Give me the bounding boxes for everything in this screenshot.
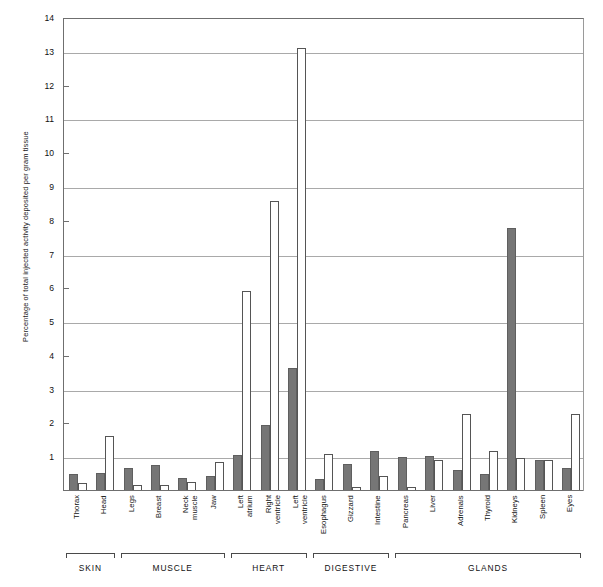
x-tick-label: Spleen [539,495,548,547]
x-tick-label: Eyes [566,495,575,547]
plot-area [63,18,584,491]
bar-filled [233,455,242,491]
bar-filled [288,368,297,491]
x-tick-label: Esophagus [320,495,329,547]
bar-group [174,19,201,491]
x-tick-label: Kidneys [511,495,520,547]
x-tick-label: Thyroid [484,495,493,547]
y-tick-label-3: 3 [28,384,54,394]
x-tick-label: Intestine [374,495,383,547]
y-tick-label-9: 9 [28,181,54,191]
y-tick-label-4: 4 [28,350,54,360]
bar-open [270,201,279,491]
bar-open [242,291,251,491]
group-label-muscle: MUSCLE [121,563,225,573]
y-tick-label-1: 1 [28,452,54,462]
bar-group [283,19,310,491]
x-tick-label: Adrenals [457,495,466,547]
bar-filled [343,464,352,491]
y-tick-label-2: 2 [28,418,54,428]
bar-filled [507,228,516,491]
bar-group [256,19,283,491]
bar-filled [425,456,434,491]
group-bracket [121,553,225,558]
bar-open [297,48,306,491]
bar-group [530,19,557,491]
x-tick-label: Breast [155,495,164,547]
group-bracket [66,553,115,558]
bar-open [544,460,553,491]
bar-open [516,458,525,491]
group-label-skin: SKIN [66,563,115,573]
group-label-heart: HEART [231,563,307,573]
x-tick-label: Head [100,495,109,547]
bar-group [229,19,256,491]
bar-group [366,19,393,491]
bar-group [448,19,475,491]
bar-group [311,19,338,491]
bar-open [571,414,580,491]
bar-group [338,19,365,491]
group-bracket [313,553,389,558]
x-tick-label: Right ventricle [265,495,282,547]
bar-filled [261,425,270,491]
bar-filled [96,473,105,491]
bar-filled [124,468,133,491]
group-bracket [395,553,581,558]
x-tick-label: Left ventricle [292,495,309,547]
group-label-digestive: DIGESTIVE [313,563,389,573]
chart-figure: Percentage of total injected activity de… [0,0,603,587]
x-tick-label: Jaw [210,495,219,547]
group-label-glands: GLANDS [395,563,581,573]
bar-open [489,451,498,491]
bar-filled [370,451,379,491]
x-tick-label: Thorax [73,495,82,547]
y-tick-label-5: 5 [28,317,54,327]
bar-open [105,436,114,491]
bar-group [475,19,502,491]
bar-open [215,462,224,491]
y-tick-label-8: 8 [28,215,54,225]
bar-group [146,19,173,491]
x-tick-label: Gizzard [347,495,356,547]
x-tick-label: Pancreas [402,495,411,547]
y-tick-label-11: 11 [28,114,54,124]
y-tick-label-10: 10 [28,148,54,158]
bar-filled [151,465,160,491]
y-tick-label-12: 12 [28,80,54,90]
bar-filled [562,468,571,491]
bar-filled [535,460,544,491]
x-axis-line [64,490,583,491]
x-tick-label: Liver [429,495,438,547]
bar-filled [453,470,462,491]
y-tick-label-14: 14 [28,13,54,23]
bar-group [91,19,118,491]
bar-open [462,414,471,491]
bar-open [379,476,388,491]
bar-group [119,19,146,491]
x-tick-label: Left atrium [237,495,254,547]
bar-filled [206,476,215,491]
group-bracket [231,553,307,558]
bar-filled [480,474,489,491]
y-tick-label-7: 7 [28,249,54,259]
bar-open [434,460,443,491]
y-tick-label-13: 13 [28,46,54,56]
x-tick-label: Neck muscle [182,495,199,547]
top-caption-strip [36,0,596,9]
bar-filled [69,474,78,491]
y-tick-label-6: 6 [28,283,54,293]
bar-open [324,454,333,491]
bar-group [503,19,530,491]
bar-group [420,19,447,491]
bar-group [64,19,91,491]
bar-group [393,19,420,491]
x-tick-label: Legs [128,495,137,547]
bar-group [558,19,585,491]
bar-filled [398,457,407,491]
bar-group [201,19,228,491]
